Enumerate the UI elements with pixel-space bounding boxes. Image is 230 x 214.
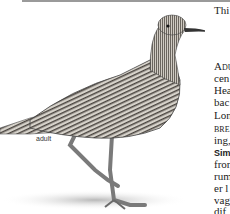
text-line: bac [214,96,229,109]
bill [184,28,205,32]
text-line: bre [214,122,230,135]
text-line: er l [214,182,228,195]
figure-label: adult [36,135,51,142]
text-line: rum [214,170,230,183]
head [158,15,186,35]
text-line: ing, [214,134,230,147]
text-line: Adu [214,60,230,73]
ground-shadow [0,190,190,210]
curlew-illustration [0,0,205,214]
intro-text: Thi [214,4,229,17]
text-line: dif [214,205,226,214]
text-line: Lon [214,109,230,122]
text-line: Hea [214,84,230,97]
text-line: fron [214,158,230,171]
text-line: cen [214,72,229,85]
eye [166,24,169,27]
